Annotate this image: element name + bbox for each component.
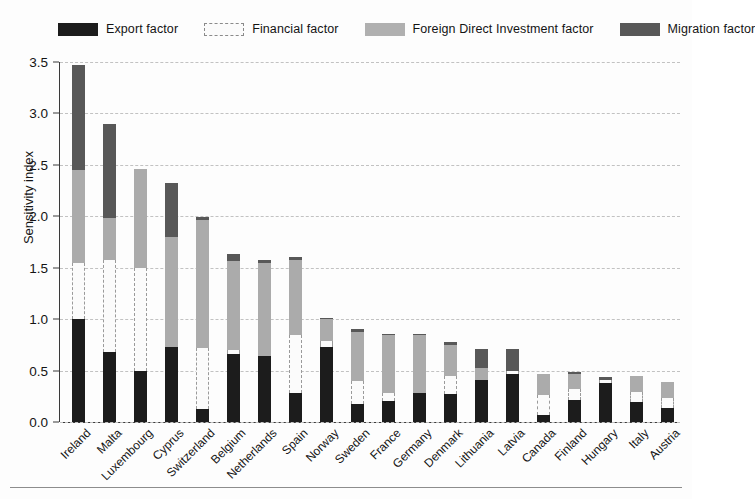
bar-norway bbox=[320, 318, 333, 422]
bar-segment bbox=[72, 319, 85, 422]
bar-segment bbox=[289, 335, 302, 394]
gridline bbox=[60, 216, 680, 217]
gridline bbox=[60, 268, 680, 269]
y-tick-label: 2.0 bbox=[29, 209, 48, 224]
bar-segment bbox=[475, 368, 488, 380]
bar-segment bbox=[382, 335, 395, 394]
gridline bbox=[60, 62, 680, 63]
bar-segment bbox=[72, 65, 85, 170]
y-axis-ticks: 0.00.51.01.52.02.53.03.5 bbox=[0, 0, 60, 499]
bar-segment bbox=[103, 218, 116, 259]
bar-segment bbox=[134, 268, 147, 371]
bar-segment bbox=[72, 170, 85, 263]
bar-segment bbox=[134, 169, 147, 268]
bar-segment bbox=[351, 332, 364, 381]
y-tick-label: 2.5 bbox=[29, 157, 48, 172]
gridline bbox=[60, 165, 680, 166]
bar-luxembourg bbox=[134, 169, 147, 422]
bar-segment bbox=[227, 261, 240, 350]
bar-segment bbox=[444, 345, 457, 376]
bar-segment bbox=[289, 260, 302, 335]
bar-segment bbox=[413, 335, 426, 394]
gridline bbox=[60, 371, 680, 372]
bar-austria bbox=[661, 382, 674, 422]
bar-segment bbox=[103, 124, 116, 219]
plot-area bbox=[59, 62, 680, 422]
bar-segment bbox=[165, 237, 178, 347]
gridline bbox=[60, 319, 680, 320]
bar-segment bbox=[475, 349, 488, 368]
y-tick-label: 1.0 bbox=[29, 312, 48, 327]
bar-segment bbox=[630, 376, 643, 392]
bar-ireland bbox=[72, 65, 85, 422]
bar-segment bbox=[103, 260, 116, 353]
bar-segment bbox=[320, 319, 333, 341]
y-tick-label: 0.0 bbox=[29, 415, 48, 430]
bar-malta bbox=[103, 124, 116, 422]
y-tick-label: 1.5 bbox=[29, 260, 48, 275]
bar-segment bbox=[506, 349, 519, 371]
y-tick-label: 3.0 bbox=[29, 106, 48, 121]
bar-switzerland bbox=[196, 217, 209, 422]
bar-segment bbox=[196, 220, 209, 348]
bar-segment bbox=[661, 382, 674, 398]
bar-segment bbox=[537, 374, 550, 396]
bar-segment bbox=[258, 263, 271, 357]
bar-segment bbox=[165, 183, 178, 236]
gridline bbox=[60, 113, 680, 114]
figure-bottom-rule bbox=[10, 487, 682, 488]
y-tick-label: 3.5 bbox=[29, 55, 48, 70]
bar-segment bbox=[568, 374, 581, 389]
bar-segment bbox=[72, 263, 85, 320]
bar-cyprus bbox=[165, 183, 178, 422]
bar-segment bbox=[661, 398, 674, 407]
y-tick-label: 0.5 bbox=[29, 363, 48, 378]
